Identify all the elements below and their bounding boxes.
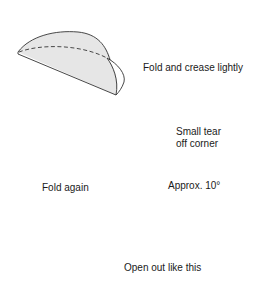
step-2-label: Fold again <box>42 182 89 194</box>
step-3-label: Open out like this <box>124 262 201 274</box>
tear-annotation-line1: Small tear <box>176 126 221 138</box>
diagram-canvas <box>0 0 260 296</box>
angle-annotation: Approx. 10° <box>168 180 220 192</box>
tear-annotation-line2: off corner <box>176 138 218 150</box>
step-1-label: Fold and crease lightly <box>143 62 243 74</box>
step-1-figure <box>18 32 124 95</box>
